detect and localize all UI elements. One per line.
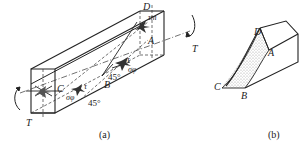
b-point-c-label: C [214, 81, 221, 92]
b-point-d-label: D [253, 26, 262, 37]
angle-label-lower: 45° [88, 98, 101, 108]
tau-label-center: τ [127, 55, 131, 64]
torque-left-label: T [26, 117, 33, 128]
angle-label-upper: 45° [108, 72, 121, 82]
torque-left-icon [15, 87, 20, 110]
b-point-b-label: B [241, 90, 247, 101]
torque-right-icon [186, 15, 195, 37]
tau-label-lower: τ [84, 82, 88, 91]
torsion-diagram: D A B C T T τ σφ τ σφ τm 45° 45° (a) D A… [0, 0, 302, 146]
b-point-a-label: A [267, 47, 275, 58]
point-a-label: A [147, 35, 155, 46]
torque-right-label: T [192, 43, 199, 54]
tau-max-label: τm [148, 13, 157, 22]
point-d-label: D [142, 1, 151, 12]
caption-b: (b) [268, 129, 280, 141]
caption-a: (a) [99, 129, 110, 141]
point-c-label: C [57, 83, 64, 94]
sigma-label-center: σφ [128, 65, 137, 74]
sigma-label-lower: σφ [66, 93, 75, 102]
